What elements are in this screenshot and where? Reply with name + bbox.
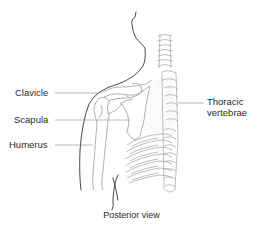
caption-posterior-view: Posterior view xyxy=(0,210,263,220)
diagram-canvas: Clavicle Scapula Humerus Thoracic verteb… xyxy=(0,0,263,236)
humerus-bone xyxy=(93,97,110,190)
label-thoracic-line2: vertebrae xyxy=(207,107,247,118)
label-clavicle: Clavicle xyxy=(15,87,48,98)
label-thoracic-line1: Thoracic xyxy=(207,96,247,107)
label-humerus: Humerus xyxy=(9,139,48,150)
ribs xyxy=(125,134,172,183)
label-thoracic-vertebrae: Thoracic vertebrae xyxy=(207,96,247,118)
label-scapula: Scapula xyxy=(14,114,48,125)
